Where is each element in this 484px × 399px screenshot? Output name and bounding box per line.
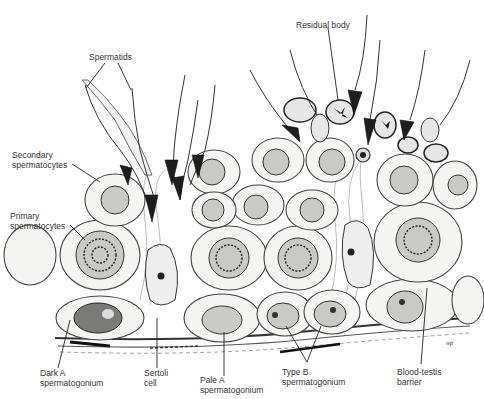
label-pale-a-spermatogonium-line2: spermatogonium	[200, 385, 263, 395]
label-secondary-spermatocytes-line1: Secondary	[12, 150, 53, 160]
seminiferous-epithelium-illustration: wp	[0, 0, 484, 399]
label-blood-testis-barrier-line2: barrier	[397, 377, 422, 387]
label-type-b-spermatogonium-line1: Type B	[282, 367, 308, 377]
label-sertoli-cell-line2: cell	[144, 378, 157, 388]
label-blood-testis-barrier-line1: Blood-testis	[397, 367, 441, 377]
spermatids-right	[250, 15, 470, 145]
label-dark-a-spermatogonium-line2: spermatogonium	[40, 378, 103, 388]
label-dark-a-spermatogonium-line1: Dark A	[40, 368, 66, 378]
label-residual-body: Residual body	[296, 20, 350, 30]
label-primary-spermatocytes-line1: Primary	[10, 211, 39, 221]
label-pale-a-spermatogonium-line1: Pale A	[200, 375, 225, 385]
label-spermatids: Spermatids	[89, 52, 132, 62]
artist-signature: wp	[446, 340, 453, 346]
label-sertoli-cell-line1: Sertoli	[144, 368, 168, 378]
label-secondary-spermatocytes-line2: spermatocytes	[12, 160, 67, 170]
label-type-b-spermatogonium-line2: spermatogonium	[282, 377, 345, 387]
label-primary-spermatocytes-line2: spermatocytes	[10, 221, 65, 231]
